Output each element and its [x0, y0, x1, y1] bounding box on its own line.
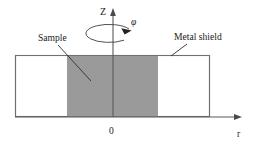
metal-shield-label: Metal shield [174, 31, 222, 42]
phi-angle-label: φ [131, 17, 136, 27]
figure-canvas: Sample Metal shield Z r 0 φ [0, 0, 255, 146]
origin-label: 0 [109, 126, 114, 136]
figure-container: Sample Metal shield Z r 0 φ [0, 0, 255, 146]
z-axis-label: Z [100, 6, 106, 17]
sample-label: Sample [38, 32, 67, 43]
